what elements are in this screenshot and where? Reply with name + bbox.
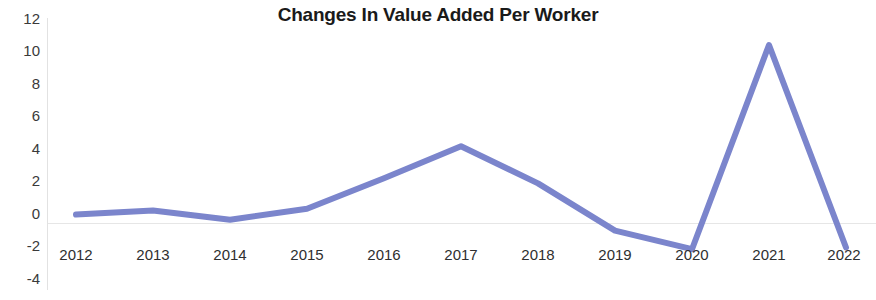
- x-axis-tick-labels: 2012 2013 2014 2015 2016 2017 2018 2019 …: [0, 0, 876, 300]
- x-tick-label: 2017: [433, 247, 489, 262]
- x-tick-label: 2012: [48, 247, 104, 262]
- x-tick-label: 2019: [587, 247, 643, 262]
- plot-area: 12 10 8 6 4 2 0 -2 -4 2012 2013 2014 201…: [0, 0, 876, 300]
- x-tick-label: 2021: [741, 247, 797, 262]
- x-tick-label: 2014: [202, 247, 258, 262]
- x-tick-label: 2020: [664, 247, 720, 262]
- x-tick-label: 2018: [510, 247, 566, 262]
- x-tick-label: 2013: [125, 247, 181, 262]
- x-tick-label: 2016: [356, 247, 412, 262]
- x-tick-label: 2015: [279, 247, 335, 262]
- chart-container: Changes In Value Added Per Worker 12 10 …: [0, 0, 876, 300]
- x-tick-label: 2022: [816, 247, 872, 262]
